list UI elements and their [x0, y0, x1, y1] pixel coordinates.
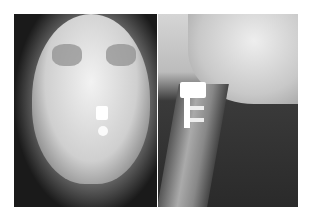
right-orbit [106, 44, 136, 66]
cervical-spine [158, 84, 229, 207]
implant-ap-upper [96, 106, 108, 120]
ap-skull-radiograph [14, 14, 157, 207]
left-orbit [52, 44, 82, 66]
radiograph-figure [14, 14, 298, 207]
implant-lateral-stem [184, 96, 190, 128]
implant-ap-lower [98, 126, 108, 136]
skull-shape [32, 14, 150, 184]
implant-lateral-screw-2 [190, 118, 204, 122]
implant-lateral-screw-1 [190, 106, 204, 110]
lateral-cspine-radiograph [158, 14, 298, 207]
